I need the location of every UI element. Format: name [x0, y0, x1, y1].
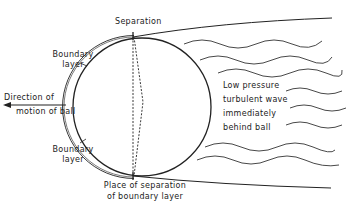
label-place-of-separation: Place of separation of boundary layer	[100, 180, 190, 202]
label-boundary-layer-bottom-line1: Boundary	[51, 145, 95, 155]
label-wake-line4: behind ball	[223, 121, 288, 135]
label-direction: Direction of	[4, 93, 54, 103]
label-boundary-layer-top-line1: Boundary	[51, 50, 95, 60]
label-boundary-layer-bottom-line2: layer	[51, 155, 95, 165]
label-wake: Low pressure turbulent wave immediately …	[223, 79, 288, 135]
label-wake-line3: immediately	[223, 107, 288, 121]
label-boundary-layer-bottom: Boundary layer	[51, 145, 95, 165]
separation-dashed-bent-line	[134, 37, 143, 176]
label-place-line2: of boundary layer	[100, 191, 190, 202]
label-place-line1: Place of separation	[100, 180, 190, 191]
wake-upper-boundary	[133, 18, 332, 37]
wave-right-mid	[290, 105, 346, 111]
label-wake-line1: Low pressure	[223, 79, 288, 93]
label-boundary-layer-top-line2: layer	[51, 60, 95, 70]
label-separation: Separation	[115, 17, 162, 27]
label-wake-line2: turbulent wave	[223, 93, 288, 107]
label-boundary-layer-top: Boundary layer	[51, 50, 95, 70]
label-direction-line2: motion of ball	[16, 107, 75, 117]
